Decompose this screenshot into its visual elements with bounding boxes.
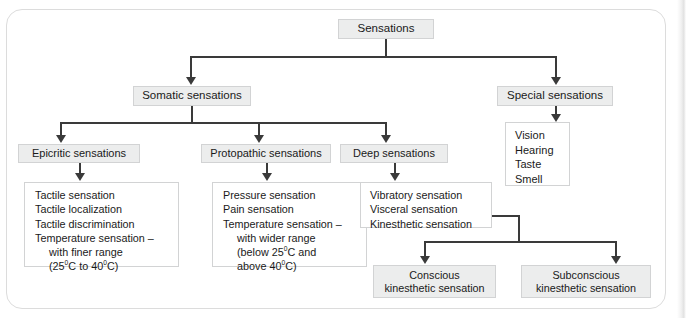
node-special-sensations: Special sensations: [497, 86, 613, 106]
protopathic-below-post: C and: [288, 246, 317, 258]
arrow-kinesthetic-to-conscious: [420, 256, 430, 264]
special-item-hearing: Hearing: [515, 143, 569, 158]
node-somatic-sensations: Somatic sensations: [133, 86, 251, 106]
epicritic-range-mid: C to 40: [68, 260, 103, 272]
node-sensations: Sensations: [338, 19, 434, 39]
arrow-somatic-to-epicritic: [56, 135, 66, 143]
list-special-sensations: Vision Hearing Taste Smell: [505, 122, 570, 186]
arrow-somatic-to-protopathic: [254, 135, 264, 143]
connector-kinesthetic-drop: [518, 215, 520, 242]
deep-item-kinesthetic-sensation: Kinesthetic sensation: [370, 217, 491, 231]
protopathic-above-pre: above 40: [237, 260, 281, 272]
connector-root-stem: [385, 39, 387, 57]
epicritic-item-tactile-localization: Tactile localization: [35, 202, 170, 216]
node-deep-sensations: Deep sensations: [340, 144, 448, 163]
node-subconscious-kinesthetic-sensation: Subconscious kinesthetic sensation: [521, 265, 651, 298]
epicritic-range-post: C): [107, 260, 118, 272]
diagram-canvas: Sensations Somatic sensations Special se…: [0, 0, 686, 318]
node-deep-label: Deep sensations: [353, 147, 435, 160]
arrow-deep-to-list: [390, 173, 400, 181]
node-sensations-label: Sensations: [358, 22, 415, 36]
epicritic-item-range-values: (250C to 400C): [35, 259, 170, 273]
protopathic-item-range-above: above 400C): [223, 259, 358, 273]
connector-root-to-somatic: [190, 56, 192, 78]
arrow-kinesthetic-to-subconscious: [611, 256, 621, 264]
arrow-root-to-somatic: [186, 77, 196, 85]
connector-kinesthetic-to-subconscious: [615, 241, 617, 257]
epicritic-item-temperature-sensation: Temperature sensation –: [35, 231, 170, 245]
connector-root-to-special: [555, 56, 557, 78]
node-conscious-kinesthetic-sensation: Conscious kinesthetic sensation: [373, 265, 496, 298]
connector-somatic-bus: [60, 122, 386, 124]
special-item-vision: Vision: [515, 128, 569, 143]
node-protopathic-label: Protopathic sensations: [210, 147, 321, 160]
node-protopathic-sensations: Protopathic sensations: [201, 144, 331, 163]
node-epicritic-sensations: Epicritic sensations: [18, 144, 140, 163]
epicritic-range-pre: (25: [49, 260, 65, 272]
arrow-root-to-special: [551, 77, 561, 85]
connector-somatic-to-deep: [385, 122, 387, 136]
special-item-taste: Taste: [515, 157, 569, 172]
connector-kinesthetic-exit: [492, 215, 520, 217]
epicritic-item-finer-range: with finer range: [35, 245, 170, 259]
subconscious-line-1: Subconscious: [552, 269, 619, 282]
protopathic-below-pre: (below 25: [237, 246, 284, 258]
special-item-smell: Smell: [515, 172, 569, 187]
page-edge-shadow: [677, 0, 686, 318]
conscious-line-2: kinesthetic sensation: [384, 282, 484, 295]
list-deep-sensations: Vibratory sensation Visceral sensation K…: [360, 182, 492, 228]
connector-somatic-to-epicritic: [60, 122, 62, 136]
protopathic-item-range-below: (below 250C and: [223, 245, 358, 259]
connector-root-bus: [190, 56, 556, 58]
node-special-label: Special sensations: [507, 89, 603, 103]
subconscious-line-2: kinesthetic sensation: [536, 282, 636, 295]
connector-kinesthetic-bus: [424, 241, 616, 243]
protopathic-above-post: C): [285, 260, 296, 272]
connector-somatic-stem: [191, 106, 193, 123]
conscious-line-1: Conscious: [409, 269, 459, 282]
arrow-protopathic-to-list: [262, 173, 272, 181]
protopathic-item-pain-sensation: Pain sensation: [223, 202, 358, 216]
deep-item-vibratory-sensation: Vibratory sensation: [370, 188, 491, 202]
arrow-special-to-list: [551, 114, 561, 122]
epicritic-item-tactile-sensation: Tactile sensation: [35, 188, 170, 202]
connector-kinesthetic-to-conscious: [424, 241, 426, 257]
arrow-epicritic-to-list: [75, 173, 85, 181]
list-protopathic-sensations: Pressure sensation Pain sensation Temper…: [212, 182, 367, 267]
node-epicritic-label: Epicritic sensations: [32, 147, 126, 160]
protopathic-item-temperature-sensation: Temperature sensation –: [223, 217, 358, 231]
protopathic-item-pressure-sensation: Pressure sensation: [223, 188, 358, 202]
deep-item-visceral-sensation: Visceral sensation: [370, 202, 491, 216]
arrow-somatic-to-deep: [381, 135, 391, 143]
connector-somatic-to-protopathic: [258, 122, 260, 136]
epicritic-item-tactile-discrimination: Tactile discrimination: [35, 217, 170, 231]
list-epicritic-sensations: Tactile sensation Tactile localization T…: [24, 182, 179, 267]
protopathic-item-wider-range: with wider range: [223, 231, 358, 245]
node-somatic-label: Somatic sensations: [142, 89, 242, 103]
